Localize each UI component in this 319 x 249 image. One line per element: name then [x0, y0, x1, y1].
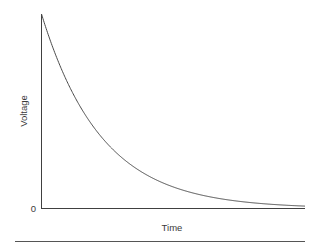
y-axis-tick-label-zero: 0 — [31, 203, 36, 214]
chart-canvas: Voltage Time 0 — [0, 0, 319, 249]
decay-curve — [42, 14, 306, 206]
y-axis-label: Voltage — [18, 95, 29, 127]
x-axis-label: Time — [162, 222, 183, 233]
exponential-decay-figure: Voltage Time 0 — [0, 0, 319, 249]
